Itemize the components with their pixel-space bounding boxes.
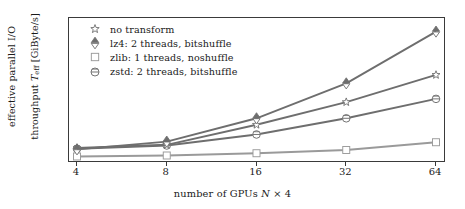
x-tick-mark (435, 162, 436, 166)
circle-bar-marker (80, 65, 110, 79)
legend-item-label: no transform (110, 24, 174, 35)
series-star (73, 71, 440, 152)
x-tick-mark (345, 162, 346, 166)
legend-item: no transform (80, 22, 237, 36)
triangle-up-down-marker (80, 36, 110, 50)
chart-figure: effective parallel I/O throughput Teff [… (0, 0, 465, 209)
x-tick-mark (256, 162, 257, 166)
y-axis-title-line2-pre: throughput (28, 81, 39, 140)
legend-item-label: zlib: 1 threads, noshuffle (110, 52, 234, 63)
x-tick-label: 16 (231, 166, 281, 177)
series-square (74, 139, 440, 160)
y-axis-title: effective parallel I/O throughput Teff [… (0, 0, 43, 157)
x-tick-label: 8 (141, 166, 191, 177)
x-axis-title-variable: N (261, 188, 270, 199)
legend-item: zstd: 2 threads, bitshuffle (80, 65, 237, 79)
y-axis-title-variable: T (28, 75, 39, 81)
y-axis-title-subscript: eff (32, 65, 40, 74)
x-tick-mark (166, 162, 167, 166)
x-tick-label: 64 (410, 166, 460, 177)
star-marker (80, 22, 110, 36)
y-axis-title-line2-post: [GiByte/s] (28, 13, 39, 65)
legend-item: lz4: 2 threads, bitshuffle (80, 36, 237, 50)
x-tick-label: 32 (320, 166, 370, 177)
legend-item-label: zstd: 2 threads, bitshuffle (110, 66, 237, 77)
y-axis-title-line1: effective parallel I/O (5, 26, 16, 127)
square-marker (80, 50, 110, 64)
legend-item: zlib: 1 threads, noshuffle (80, 50, 237, 64)
x-axis-title: number of GPUs N × 4 (0, 188, 465, 199)
legend-item-label: lz4: 2 threads, bitshuffle (110, 38, 232, 49)
x-axis-title-pre: number of GPUs (174, 188, 261, 199)
x-axis-title-post: × 4 (270, 188, 291, 199)
chart-legend: no transformlz4: 2 threads, bitshufflezl… (80, 22, 237, 79)
x-tick-mark (76, 162, 77, 166)
x-tick-label: 4 (51, 166, 101, 177)
